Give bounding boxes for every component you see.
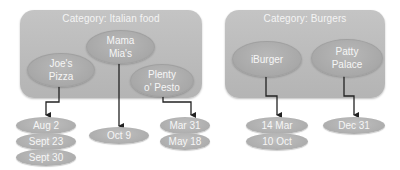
date-node: Dec 31 (323, 117, 385, 134)
date-node: Sept 30 (16, 149, 76, 166)
connector-patty-palace (344, 75, 354, 115)
date-node: Mar 31 (160, 117, 210, 134)
date-node: 14 Mar (246, 117, 308, 134)
connector-iburger (266, 75, 277, 115)
date-node: May 18 (160, 133, 210, 150)
restaurant-node-mama-mias: Mama Mia's (86, 30, 155, 64)
restaurant-name: Plenty o' Pesto (144, 68, 180, 94)
restaurant-node-iburger: iBurger (232, 41, 302, 77)
restaurant-node-patty-palace: Patty Palace (311, 39, 383, 77)
connector-plenty-o-pesto (163, 95, 191, 115)
restaurant-name: iBurger (251, 53, 283, 66)
date-node: Aug 2 (16, 117, 76, 134)
restaurant-name: Joe's Pizza (49, 57, 73, 83)
date-node: Sept 23 (16, 133, 76, 150)
date-node: Oct 9 (89, 127, 149, 144)
date-node: 10 Oct (246, 133, 308, 150)
restaurant-name: Mama Mia's (107, 34, 135, 60)
restaurant-node-plenty-o-pesto: Plenty o' Pesto (130, 64, 194, 97)
connector-joes-pizza (46, 84, 59, 115)
restaurant-name: Patty Palace (332, 45, 363, 71)
restaurant-node-joes-pizza: Joe's Pizza (27, 53, 95, 87)
